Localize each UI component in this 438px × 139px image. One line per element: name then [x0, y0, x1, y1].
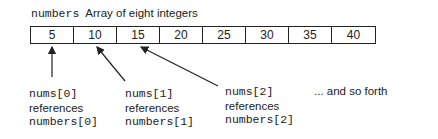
ref-name: nums[0]: [29, 87, 98, 101]
arrow-nums2-icon: [141, 47, 218, 86]
ref-name: nums[2]: [225, 85, 294, 99]
ref-target: numbers[2]: [225, 113, 294, 127]
ref-verb: references: [125, 101, 194, 115]
ref-verb: references: [29, 101, 98, 115]
reference-label-1: nums[1] references numbers[1]: [125, 87, 194, 129]
ref-name: nums[1]: [125, 87, 194, 101]
ref-target: numbers[0]: [29, 115, 98, 129]
reference-label-2: nums[2] references numbers[2]: [225, 85, 294, 127]
ref-verb: references: [225, 99, 294, 113]
ref-target: numbers[1]: [125, 115, 194, 129]
continuation-note: ... and so forth: [314, 85, 388, 97]
arrow-nums1-icon: [97, 47, 125, 81]
reference-label-0: nums[0] references numbers[0]: [29, 87, 98, 129]
